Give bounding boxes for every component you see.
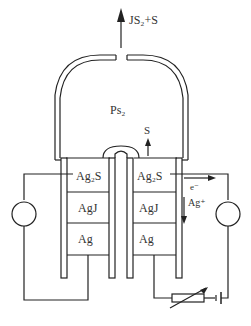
- right-circuit: [154, 174, 240, 298]
- left-layer-ag: Ag: [78, 232, 93, 246]
- chamber-gas-label: Ps₂: [110, 103, 126, 117]
- left-layer-agj: AgJ: [78, 201, 98, 215]
- right-layer-ag: Ag: [139, 232, 154, 246]
- sulfur-arrow-icon: [145, 138, 151, 156]
- sulfur-label: S: [144, 124, 150, 136]
- diagram-canvas: JS₂+S Ps₂ S Ag₂S AgJ: [0, 0, 251, 326]
- right-layer-ag2s: Ag₂S: [137, 169, 163, 183]
- left-circuit: [12, 174, 88, 300]
- center-cap: [103, 146, 139, 158]
- right-layer-agj: AgJ: [139, 201, 159, 215]
- top-output-label: JS₂+S: [129, 13, 158, 27]
- variable-resistor-icon: [170, 287, 215, 308]
- electron-label: e⁻: [190, 182, 199, 192]
- left-meter-icon: [12, 202, 36, 226]
- electron-arrow-icon: [184, 175, 216, 181]
- outlet-arrow-icon: [117, 8, 125, 48]
- battery-icon: [216, 292, 221, 304]
- silver-ion-label: Ag⁺: [188, 197, 206, 208]
- right-meter-icon: [216, 202, 240, 226]
- left-layer-ag2s: Ag₂S: [76, 169, 102, 183]
